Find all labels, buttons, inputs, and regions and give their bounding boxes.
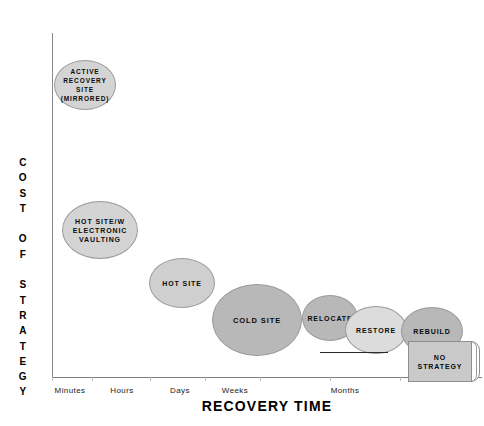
bubble-label: HOT SITE [160, 279, 203, 288]
tick-mark [92, 377, 93, 381]
bubble-restore: RESTORE [345, 306, 407, 354]
no-strategy-box-face: NO STRATEGY [408, 341, 472, 382]
tick-mark [150, 377, 151, 381]
x-axis-title: RECOVERY TIME [52, 398, 482, 414]
y-axis-line [52, 33, 53, 377]
tick-mark [260, 377, 261, 381]
x-tick-label-hours: Hours [110, 386, 133, 395]
tick-mark [400, 377, 401, 381]
bubble-label: COLD SITE [231, 316, 283, 325]
tick-mark [205, 377, 206, 381]
x-tick-label-months: Months [331, 386, 360, 395]
y-axis-title: C O S T O F S T R A T E G Y [10, 155, 36, 400]
bubble-label: HOT SITE/W ELECTRONIC VAULTING [71, 217, 130, 244]
bubble-label: ACTIVE RECOVERY SITE (MIRRORED) [59, 67, 112, 103]
bubble-hot-site-w-electronic-vaulting: HOT SITE/W ELECTRONIC VAULTING [62, 201, 138, 259]
x-tick-label-weeks: Weeks [222, 386, 248, 395]
bubble-hot-site: HOT SITE [149, 258, 215, 308]
annotation-rule [320, 352, 388, 353]
tick-mark [330, 377, 331, 381]
chart-canvas: C O S T O F S T R A T E G Y ACTIVE RECOV… [0, 0, 484, 426]
bubble-active-recovery-site-mirrored-: ACTIVE RECOVERY SITE (MIRRORED) [54, 60, 116, 110]
bubble-label: REBUILD [411, 327, 452, 336]
no-strategy-label: NO STRATEGY [418, 353, 463, 371]
bubble-cold-site: COLD SITE [212, 284, 302, 356]
x-tick-label-days: Days [170, 386, 190, 395]
x-tick-label-minutes: Minutes [55, 386, 86, 395]
bubble-label: RESTORE [354, 326, 398, 335]
no-strategy-box: NO STRATEGY [408, 341, 480, 382]
tick-mark [52, 377, 53, 381]
